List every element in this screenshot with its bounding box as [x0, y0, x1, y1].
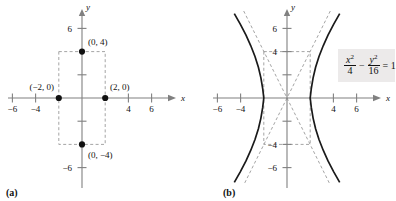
equation-den-x: 4: [347, 66, 352, 76]
axes-a: [8, 9, 176, 188]
equation-callout: x2 4 − y2 16 = 1: [338, 49, 395, 82]
point-neg2-0: [56, 95, 62, 101]
point-label-2-0: (2, 0): [110, 82, 130, 92]
y-axis-label: y: [290, 2, 295, 12]
x-tick-label-6: 6: [354, 104, 359, 114]
point-label-0-neg4: (0, −4): [88, 150, 113, 160]
panel-b-plot: −6 −4 4 6 6 4 −4 −6 x y: [195, 0, 395, 201]
point-label-0-4: (0, 4): [88, 37, 108, 47]
point-label-neg2-0: (−2, 0): [29, 82, 54, 92]
x-tick-label-4: 4: [126, 104, 131, 114]
panel-b: −6 −4 4 6 6 4 −4 −6 x y (b): [195, 0, 395, 201]
equation-right-hand-side: = 1: [383, 60, 396, 71]
panel-a: −6 −4 4 6 6 −6 x y (0, 4) (2, 0) (0, −4: [0, 0, 200, 201]
point-0-4: [79, 49, 85, 55]
y-tick-label-neg6: −6: [267, 163, 277, 173]
y-tick-label-6: 6: [273, 24, 278, 34]
y-tick-label-6: 6: [68, 24, 73, 34]
x-tick-label-neg6: −6: [213, 104, 223, 114]
x-tick-label-4: 4: [331, 104, 336, 114]
equation-den-y: 16: [369, 66, 379, 76]
equation-operator: −: [359, 60, 365, 71]
y-axis-label: y: [85, 2, 90, 12]
x-tick-label-neg4: −4: [31, 104, 41, 114]
panel-b-caption: (b): [223, 187, 235, 198]
x-tick-label-6: 6: [149, 104, 154, 114]
axes-b: [213, 9, 381, 188]
x-tick-label-neg6: −6: [8, 104, 18, 114]
y-tick-label-neg4: −4: [267, 140, 277, 150]
y-tick-label-4: 4: [273, 47, 278, 57]
equation-num-x-exponent: 2: [350, 52, 354, 60]
equation-num-y-exponent: 2: [374, 52, 378, 60]
x-tick-label-neg4: −4: [236, 104, 246, 114]
point-0-neg4: [79, 141, 85, 147]
panel-a-caption: (a): [6, 187, 18, 198]
point-2-0: [102, 95, 108, 101]
y-tick-label-neg6: −6: [62, 163, 72, 173]
hyperbola-equation: x2 4 − y2 16 = 1: [343, 55, 396, 76]
x-axis-label: x: [180, 93, 185, 103]
equation-fraction-y: y2 16: [368, 55, 380, 76]
axis-names-a: x y: [85, 2, 185, 103]
x-axis-label: x: [385, 93, 390, 103]
panel-a-plot: −6 −4 4 6 6 −6 x y (0, 4) (2, 0) (0, −4: [0, 0, 200, 201]
equation-fraction-x: x2 4: [344, 55, 356, 76]
